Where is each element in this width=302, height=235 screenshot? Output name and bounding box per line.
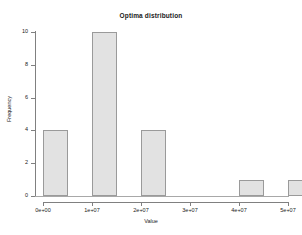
y-tick-mark [31, 163, 35, 164]
x-tick-label: 5e+07 [268, 208, 302, 214]
x-tick-mark [141, 202, 142, 206]
x-tick-label: 0e+00 [23, 208, 63, 214]
x-tick-mark [43, 202, 44, 206]
x-tick-label: 1e+07 [72, 208, 112, 214]
chart-title: Optima distribution [0, 12, 302, 19]
x-tick-label: 4e+07 [219, 208, 259, 214]
histogram-bar [141, 130, 166, 196]
y-tick-mark [31, 32, 35, 33]
histogram-bar [239, 180, 264, 196]
plot-area [36, 28, 288, 196]
histogram-bar [43, 130, 68, 196]
y-axis-title: Frequency [6, 86, 12, 132]
histogram-bar [92, 32, 117, 196]
y-tick-mark [31, 98, 35, 99]
x-tick-mark [288, 202, 289, 206]
x-tick-mark [92, 202, 93, 206]
plot-baseline [35, 196, 289, 197]
y-tick-label: 8 [2, 62, 28, 68]
histogram-bar [288, 180, 302, 196]
y-tick-mark [31, 130, 35, 131]
y-tick-label: 10 [2, 29, 28, 35]
y-tick-mark [31, 196, 35, 197]
x-tick-label: 2e+07 [121, 208, 161, 214]
y-tick-label: 0 [2, 193, 28, 199]
histogram-chart: Optima distribution 0246810 0e+001e+072e… [0, 0, 302, 235]
y-tick-label: 2 [2, 160, 28, 166]
x-axis-title: Value [0, 218, 302, 224]
x-tick-mark [190, 202, 191, 206]
y-tick-mark [31, 65, 35, 66]
x-tick-label: 3e+07 [170, 208, 210, 214]
y-axis-line [35, 31, 36, 197]
x-axis-line [43, 202, 289, 203]
x-tick-mark [239, 202, 240, 206]
